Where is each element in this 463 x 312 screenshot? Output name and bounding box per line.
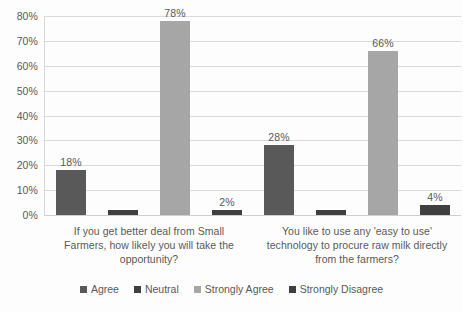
legend-label: Strongly Agree — [205, 283, 274, 295]
bar-slot: 28% — [264, 0, 294, 215]
bar-chart: 0%10%20%30%40%50%60%70%80% 18%78%2%28%66… — [0, 0, 463, 312]
x-axis-label-line: You like to use any 'easy to use' — [253, 224, 461, 238]
x-axis-category-labels: If you get better deal from SmallFarmers… — [45, 224, 461, 276]
bar-group: 18%78%2% — [45, 0, 253, 215]
chart-legend: AgreeNeutralStrongly AgreeStrongly Disag… — [0, 283, 463, 295]
bar[interactable]: 66% — [368, 51, 398, 215]
bar[interactable]: 28% — [264, 145, 294, 215]
y-axis-tick-label: 70% — [0, 35, 38, 47]
x-axis-label: If you get better deal from SmallFarmers… — [45, 224, 253, 266]
legend-swatch-icon — [289, 286, 296, 293]
legend-label: Agree — [91, 283, 119, 295]
axis-baseline — [44, 215, 461, 216]
legend-swatch-icon — [134, 286, 141, 293]
y-axis-tick-label: 80% — [0, 10, 38, 22]
bar-value-label: 28% — [268, 131, 289, 143]
legend-item[interactable]: Agree — [80, 283, 119, 295]
legend-label: Neutral — [145, 283, 179, 295]
y-axis-tick-label: 40% — [0, 110, 38, 122]
bar-slot — [316, 0, 346, 215]
bar[interactable] — [108, 210, 138, 215]
legend-swatch-icon — [194, 286, 201, 293]
y-axis-tick-label: 30% — [0, 134, 38, 146]
y-axis-tick-label: 20% — [0, 159, 38, 171]
bar-slot: 18% — [56, 0, 86, 215]
legend-item[interactable]: Strongly Agree — [194, 283, 274, 295]
y-axis-tick-label: 0% — [0, 209, 38, 221]
y-axis-tick-label: 50% — [0, 85, 38, 97]
x-axis-label-line: Farmers, how likely you will take the — [45, 238, 253, 252]
x-axis-label: You like to use any 'easy to use'technol… — [253, 224, 461, 266]
bar-value-label: 78% — [164, 7, 185, 19]
bar-value-label: 4% — [427, 191, 442, 203]
bar-slot — [108, 0, 138, 215]
legend-swatch-icon — [80, 286, 87, 293]
x-axis-label-line: from the farmers? — [253, 252, 461, 266]
bar[interactable]: 78% — [160, 21, 190, 215]
bar-value-label: 2% — [219, 196, 234, 208]
y-axis-tick-label: 10% — [0, 184, 38, 196]
bar-value-label: 18% — [60, 156, 81, 168]
bar[interactable]: 2% — [212, 210, 242, 215]
bar-group: 28%66%4% — [253, 0, 461, 215]
y-axis-tick-label: 60% — [0, 60, 38, 72]
bar[interactable] — [316, 210, 346, 215]
x-axis-label-line: technology to procure raw milk directly — [253, 238, 461, 252]
plot-area: 0%10%20%30%40%50%60%70%80% 18%78%2%28%66… — [0, 0, 463, 224]
x-axis-label-line: opportunity? — [45, 252, 253, 266]
legend-item[interactable]: Strongly Disagree — [289, 283, 383, 295]
bar[interactable]: 18% — [56, 170, 86, 215]
legend-item[interactable]: Neutral — [134, 283, 179, 295]
x-axis-label-line: If you get better deal from Small — [45, 224, 253, 238]
bar-groups: 18%78%2%28%66%4% — [45, 0, 461, 215]
bar-slot: 4% — [420, 0, 450, 215]
bar-value-label: 66% — [372, 37, 393, 49]
y-axis: 0%10%20%30%40%50%60%70%80% — [0, 0, 42, 224]
bar-slot: 2% — [212, 0, 242, 215]
bar-slot: 66% — [368, 0, 398, 215]
bar[interactable]: 4% — [420, 205, 450, 215]
bar-slot: 78% — [160, 0, 190, 215]
legend-label: Strongly Disagree — [300, 283, 383, 295]
